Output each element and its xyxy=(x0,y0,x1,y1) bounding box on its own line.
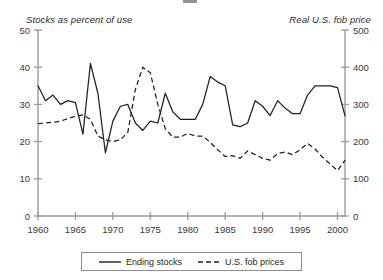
svg-text:0: 0 xyxy=(353,211,358,222)
legend-label-fob-prices: U.S. fob prices xyxy=(225,257,284,267)
series-line-ending-stocks xyxy=(38,63,345,152)
svg-text:2000: 2000 xyxy=(327,224,348,235)
chart-figure: Stocks as percent of use Real U.S. fob p… xyxy=(0,0,383,280)
svg-text:400: 400 xyxy=(353,62,369,73)
svg-text:10: 10 xyxy=(19,173,30,184)
x-axis-ticks: 196019651970197519801985199019952000 xyxy=(27,212,348,235)
svg-text:1980: 1980 xyxy=(177,224,198,235)
legend-swatch-dashed xyxy=(198,258,220,266)
svg-text:30: 30 xyxy=(19,99,30,110)
svg-text:40: 40 xyxy=(19,62,30,73)
chart-legend: Ending stocks U.S. fob prices xyxy=(81,252,302,271)
legend-item-ending-stocks: Ending stocks xyxy=(99,257,182,267)
svg-text:500: 500 xyxy=(353,25,369,36)
svg-text:1975: 1975 xyxy=(140,224,161,235)
legend-swatch-solid xyxy=(99,258,121,266)
svg-text:1965: 1965 xyxy=(65,224,86,235)
legend-item-fob-prices: U.S. fob prices xyxy=(198,257,284,267)
svg-text:0: 0 xyxy=(25,211,30,222)
svg-text:1985: 1985 xyxy=(215,224,236,235)
svg-text:200: 200 xyxy=(353,136,369,147)
plot-area: 01020304050 0100200300400500 19601965197… xyxy=(0,0,383,250)
svg-text:1960: 1960 xyxy=(27,224,48,235)
svg-text:50: 50 xyxy=(19,25,30,36)
svg-text:20: 20 xyxy=(19,136,30,147)
svg-text:1990: 1990 xyxy=(252,224,273,235)
svg-text:300: 300 xyxy=(353,99,369,110)
legend-label-ending-stocks: Ending stocks xyxy=(126,257,182,267)
svg-text:100: 100 xyxy=(353,173,369,184)
svg-text:1970: 1970 xyxy=(102,224,123,235)
svg-text:1995: 1995 xyxy=(290,224,311,235)
